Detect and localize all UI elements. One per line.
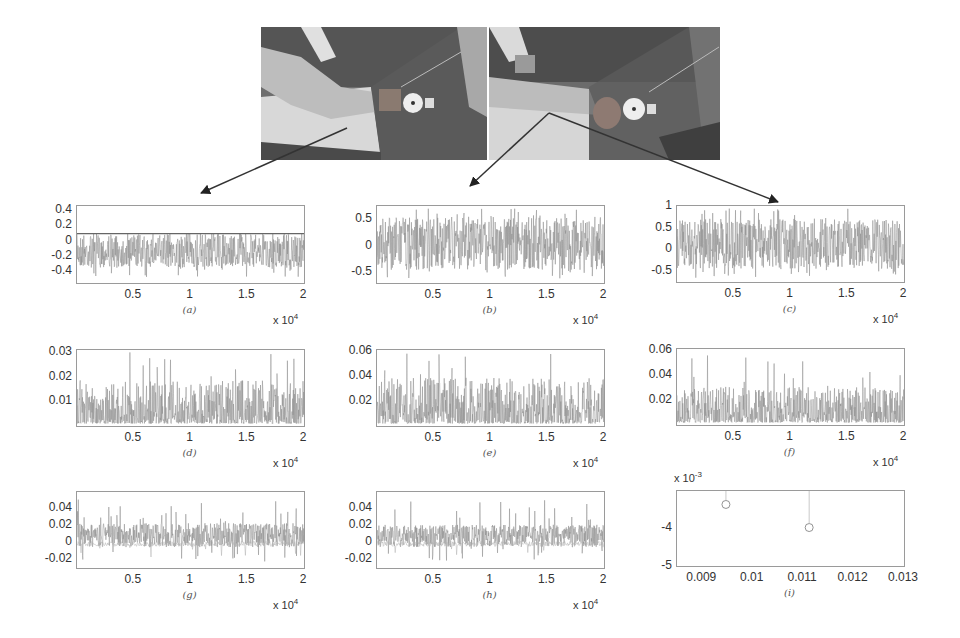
plot-f: [676, 348, 905, 426]
y-tick-label: -5: [628, 559, 672, 571]
x-axis-multiplier: x 104: [573, 597, 598, 611]
x-tick-label: 2: [583, 573, 623, 585]
y-tick-label: -0.2: [28, 249, 72, 261]
y-tick-label: 0: [28, 535, 72, 547]
x-axis-multiplier: x 104: [873, 454, 898, 468]
x-axis-multiplier: x 104: [273, 597, 298, 611]
x-tick-label: 0.012: [833, 571, 873, 583]
x-tick-label: 0.01: [732, 571, 772, 583]
x-tick-label: 0.5: [113, 288, 153, 300]
plot-c: [676, 205, 905, 283]
x-tick-label: 1: [170, 431, 210, 443]
subplot-caption: (h): [470, 589, 510, 600]
x-tick-label: 1: [170, 573, 210, 585]
x-tick-label: 1: [170, 288, 210, 300]
arm-photo-left: [261, 27, 487, 160]
y-tick-label: 0.04: [628, 368, 672, 380]
y-tick-label: 0.02: [328, 394, 372, 406]
x-tick-label: 0.013: [883, 571, 923, 583]
x-tick-label: 2: [883, 287, 923, 299]
x-tick-label: 1: [770, 287, 810, 299]
x-axis-multiplier: x 104: [573, 312, 598, 326]
x-tick-label: 1: [470, 431, 510, 443]
x-tick-label: 1.5: [526, 288, 566, 300]
subplot-caption: (e): [470, 447, 510, 458]
y-tick-label: 0.5: [328, 212, 372, 224]
x-tick-label: 1: [470, 288, 510, 300]
y-tick-label: 0.03: [28, 345, 72, 357]
x-tick-label: 0.5: [113, 573, 153, 585]
x-tick-label: 0.5: [413, 288, 453, 300]
y-tick-label: 0.06: [328, 344, 372, 356]
x-tick-label: 1.5: [226, 573, 266, 585]
y-tick-label: 0.06: [628, 343, 672, 355]
y-tick-label: 0.4: [28, 203, 72, 215]
y-tick-label: 0.5: [628, 221, 672, 233]
plot-d: [76, 349, 305, 427]
y-tick-label: 0: [328, 239, 372, 251]
plot-h: [376, 491, 605, 569]
plot-a: [76, 205, 305, 284]
y-tick-label: 0: [28, 234, 72, 246]
y-tick-label: 0: [628, 242, 672, 254]
x-axis-multiplier: x 104: [573, 455, 598, 469]
x-tick-label: 1: [470, 573, 510, 585]
x-tick-label: 1.5: [526, 431, 566, 443]
y-tick-label: 0: [328, 535, 372, 547]
y-tick-label: 0.04: [328, 501, 372, 513]
x-axis-multiplier: x 104: [273, 312, 298, 326]
x-tick-label: 1.5: [526, 573, 566, 585]
x-tick-label: 0.5: [413, 573, 453, 585]
y-tick-label: 1: [628, 199, 672, 211]
x-tick-label: 0.011: [782, 571, 822, 583]
plot-b: [376, 205, 605, 284]
y-tick-label: 0.01: [28, 394, 72, 406]
x-tick-label: 2: [583, 431, 623, 443]
plot-i: [676, 490, 905, 567]
x-tick-label: 1.5: [226, 288, 266, 300]
y-tick-label: 0.02: [628, 393, 672, 405]
y-axis-multiplier: x 10-3: [674, 470, 702, 484]
x-tick-label: 2: [883, 430, 923, 442]
y-tick-label: -0.4: [28, 264, 72, 276]
x-tick-label: 1.5: [826, 430, 866, 442]
y-tick-label: -0.5: [628, 264, 672, 276]
y-tick-label: 0.04: [328, 369, 372, 381]
subplot-caption: (c): [770, 303, 810, 314]
subplot-caption: (g): [170, 589, 210, 600]
x-tick-label: 2: [283, 431, 323, 443]
subplot-caption: (a): [170, 304, 210, 315]
plot-e: [376, 349, 605, 427]
y-tick-label: 0.2: [28, 218, 72, 230]
x-axis-multiplier: x 104: [273, 455, 298, 469]
y-tick-label: 0.02: [28, 370, 72, 382]
x-tick-label: 0.5: [713, 430, 753, 442]
y-tick-label: -0.02: [328, 552, 372, 564]
subplot-caption: (i): [770, 587, 810, 598]
x-tick-label: 2: [583, 288, 623, 300]
x-tick-label: 0.009: [681, 571, 721, 583]
x-tick-label: 0.5: [713, 287, 753, 299]
y-tick-label: -0.5: [328, 265, 372, 277]
y-tick-label: 0.02: [328, 518, 372, 530]
plot-g: [76, 491, 305, 569]
subplot-caption: (d): [170, 447, 210, 458]
y-tick-label: 0.02: [28, 518, 72, 530]
x-tick-label: 1: [770, 430, 810, 442]
x-tick-label: 2: [283, 288, 323, 300]
x-tick-label: 1.5: [826, 287, 866, 299]
x-tick-label: 0.5: [113, 431, 153, 443]
y-tick-label: -0.02: [28, 552, 72, 564]
y-tick-label: -4: [628, 521, 672, 533]
x-tick-label: 1.5: [226, 431, 266, 443]
y-tick-label: 0.04: [28, 501, 72, 513]
subplot-caption: (b): [470, 304, 510, 315]
x-tick-label: 0.5: [413, 431, 453, 443]
x-axis-multiplier: x 104: [873, 311, 898, 325]
x-tick-label: 2: [283, 573, 323, 585]
subplot-caption: (f): [770, 446, 810, 457]
arm-photo-right: [489, 27, 720, 160]
